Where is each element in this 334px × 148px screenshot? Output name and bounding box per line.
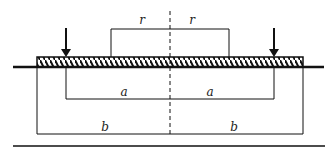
load-arrow-left bbox=[61, 28, 71, 57]
label-a-left: a bbox=[120, 85, 127, 99]
label-r-right: r bbox=[189, 13, 196, 27]
label-b-left: b bbox=[101, 120, 109, 134]
label-a-right: a bbox=[206, 85, 213, 99]
load-arrow-right bbox=[269, 28, 279, 57]
label-r-left: r bbox=[139, 13, 146, 27]
label-b-right: b bbox=[230, 120, 238, 134]
diagram: r r a a b b bbox=[0, 0, 334, 148]
